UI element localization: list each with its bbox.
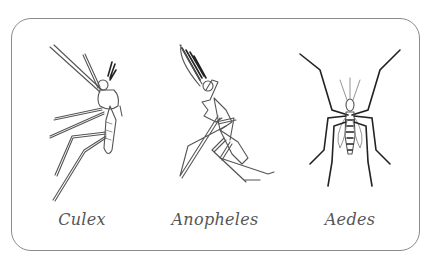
aedes-mosquito-icon bbox=[290, 40, 410, 200]
culex-label: Culex bbox=[22, 210, 142, 229]
culex-mosquito-icon bbox=[40, 40, 130, 210]
anopheles-mosquito-icon bbox=[160, 40, 280, 200]
aedes-label: Aedes bbox=[290, 210, 410, 229]
anopheles-label: Anopheles bbox=[155, 210, 275, 229]
